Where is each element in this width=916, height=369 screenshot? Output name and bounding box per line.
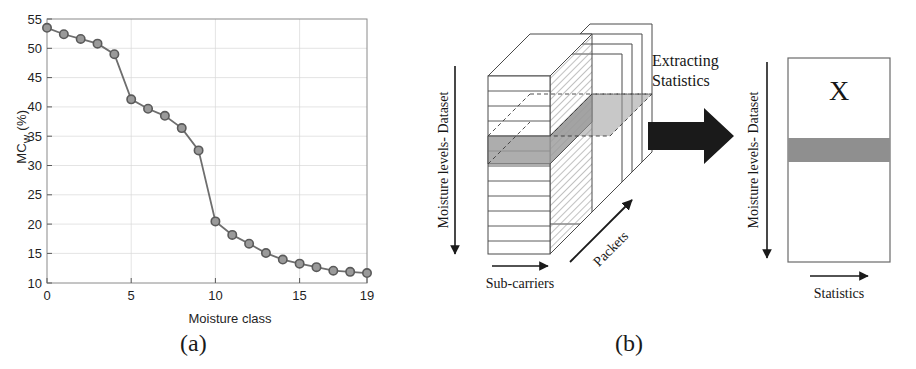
data-point (346, 268, 354, 276)
y-tick-label: 55 (28, 12, 42, 27)
extracting-statistics-diagram: Moisture levels- Dataset Sub-carriers Pa… (430, 0, 916, 369)
x-tick-label: 15 (292, 288, 306, 303)
data-point (363, 269, 371, 277)
data-point (279, 255, 287, 263)
data-point (178, 124, 186, 132)
matrix-symbol: X (829, 75, 849, 106)
y-axis-label-main: MC (14, 143, 29, 164)
figure-caption-b: (b) (615, 330, 643, 357)
y-tick-label: 15 (28, 246, 42, 261)
data-point (262, 249, 270, 257)
data-point (329, 266, 337, 274)
data-point (110, 50, 118, 58)
x-tick-label: 19 (360, 288, 374, 303)
cube-horizontal-axis-label: Sub-carriers (486, 276, 554, 291)
matrix-vertical-axis-label: Moisture levels- Dataset (746, 91, 761, 228)
y-tick-label: 10 (28, 276, 42, 291)
data-point (245, 239, 253, 247)
y-tick-label: 25 (28, 187, 42, 202)
data-point (312, 263, 320, 271)
plot-background (47, 19, 367, 283)
statistics-matrix: Moisture levels- Dataset X Statistics (746, 58, 890, 301)
data-point (295, 259, 303, 267)
y-axis-label-sub: W (22, 134, 32, 143)
y-tick-label: 20 (28, 217, 42, 232)
x-tick-label: 5 (128, 288, 135, 303)
extracting-statistics-arrow-group: Extracting Statistics (648, 52, 734, 164)
data-point (144, 105, 152, 113)
x-tick-label: 0 (43, 288, 50, 303)
right-arrow-icon (648, 108, 734, 164)
figure-panel-b: Moisture levels- Dataset Sub-carriers Pa… (430, 0, 916, 369)
data-point (228, 231, 236, 239)
extracting-statistics-label-line1: Extracting (652, 52, 719, 70)
data-point (194, 146, 202, 154)
y-tick-label: 50 (28, 41, 42, 56)
data-point (211, 217, 219, 225)
cube-front-face (488, 76, 550, 254)
x-tick-labels: 0 5 10 15 19 (43, 288, 374, 303)
dataset-cube: Moisture levels- Dataset Sub-carriers Pa… (436, 24, 652, 291)
extracting-statistics-label-line2: Statistics (652, 72, 710, 89)
data-point (93, 39, 101, 47)
x-axis-label: Moisture class (150, 311, 310, 326)
data-point (127, 95, 135, 103)
y-tick-label: 45 (28, 70, 42, 85)
cube-vertical-axis-label: Moisture levels- Dataset (436, 91, 451, 228)
data-point (43, 24, 51, 32)
matrix-horizontal-axis-label: Statistics (814, 286, 865, 301)
y-axis-label: MCW (%) (14, 110, 32, 164)
matrix-highlight-band (788, 138, 890, 162)
y-axis-label-unit: (%) (14, 110, 29, 135)
data-point (60, 30, 68, 38)
figure-caption-a: (a) (180, 330, 207, 357)
figure-panel-a: 10 15 20 25 30 35 40 45 50 55 0 5 10 15 … (0, 0, 430, 369)
data-point (76, 35, 84, 43)
data-point (161, 112, 169, 120)
x-tick-label: 10 (208, 288, 222, 303)
